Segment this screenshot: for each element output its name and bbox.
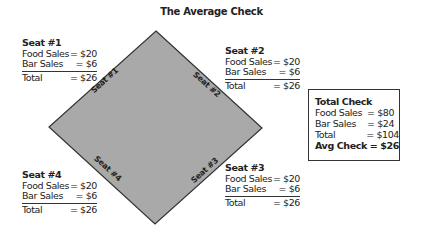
seat-2-heading: Seat #2 [225,46,300,57]
bar-sales-label: Bar Sales [22,59,76,70]
seat-1-summary: Seat #1 Food Sales= $20 Bar Sales= $6 To… [22,38,97,83]
seat-1-heading: Seat #1 [22,38,97,49]
total-value: = $26 [273,198,300,209]
avg-check-value: = $26 [370,140,399,151]
bar-sales-label: Bar Sales [225,67,279,78]
bar-sales-value: = $6 [76,59,97,70]
total-value: = $26 [70,73,97,84]
seat-4-summary: Seat #4 Food Sales= $20 Bar Sales= $6 To… [22,170,97,215]
bar-sales-label: Bar Sales [22,191,76,202]
bar-sales-value: = $6 [279,184,300,195]
seat-2-summary: Seat #2 Food Sales= $20 Bar Sales= $6 To… [225,46,300,91]
bar-sales-value: = $6 [279,67,300,78]
total-bar-sales-value: = $24 [367,118,394,129]
total-sum-value: = $104 [366,129,399,140]
total-food-sales-value: = $80 [367,107,394,118]
total-sum-label: Total [315,129,366,140]
seat-3-heading: Seat #3 [225,163,300,174]
total-check-box: Total Check Food Sales= $80 Bar Sales= $… [308,89,400,161]
total-food-sales-label: Food Sales [315,107,367,118]
avg-check-label: Avg Check [315,140,367,151]
total-bar-sales-label: Bar Sales [315,118,367,129]
total-check-heading: Total Check [315,96,399,107]
total-value: = $26 [273,81,300,92]
seat-4-heading: Seat #4 [22,170,97,181]
total-label: Total [225,198,273,209]
total-value: = $26 [70,205,97,216]
total-label: Total [225,81,273,92]
bar-sales-value: = $6 [76,191,97,202]
bar-sales-label: Bar Sales [225,184,279,195]
seat-3-summary: Seat #3 Food Sales= $20 Bar Sales= $6 To… [225,163,300,208]
total-label: Total [22,205,70,216]
total-label: Total [22,73,70,84]
